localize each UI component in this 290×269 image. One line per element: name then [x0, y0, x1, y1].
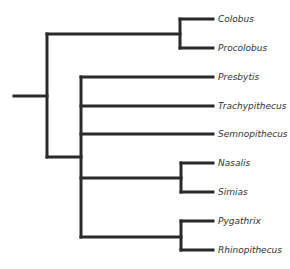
taxon-label-simias: Simias: [218, 187, 248, 197]
taxon-label-semnopithecus: Semnopithecus: [218, 129, 288, 139]
taxon-label-procolobus: Procolobus: [218, 43, 267, 53]
taxon-label-rhinopithecus: Rhinopithecus: [218, 245, 282, 255]
taxon-label-nasalis: Nasalis: [218, 158, 250, 168]
taxon-label-colobus: Colobus: [218, 14, 254, 24]
taxon-label-trachypithecus: Trachypithecus: [218, 101, 286, 111]
taxon-label-pygathrix: Pygathrix: [218, 216, 261, 226]
taxon-label-presbytis: Presbytis: [218, 72, 259, 82]
